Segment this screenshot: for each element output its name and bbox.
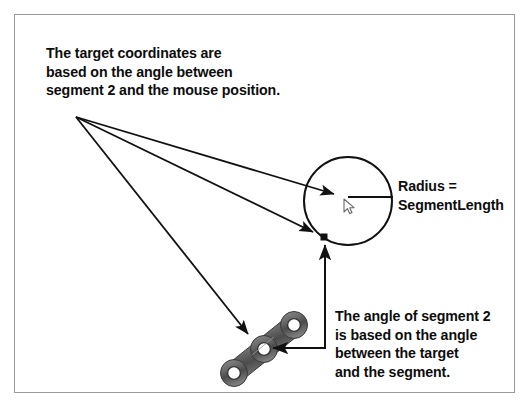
mouse-cursor-icon: [344, 199, 354, 214]
leader-to-mouse: [76, 117, 334, 194]
target-point: [321, 234, 328, 241]
leader-to-target: [76, 117, 313, 232]
segment-angle-note: The angle of segment 2 is based on the a…: [335, 307, 490, 381]
diagram-figure: The target coordinates are based on the …: [0, 0, 531, 418]
leader-to-chain: [76, 117, 248, 334]
radius-note: Radius = SegmentLength: [398, 177, 504, 214]
target-coordinates-note: The target coordinates are based on the …: [46, 44, 280, 100]
reach-circle: [304, 157, 392, 245]
